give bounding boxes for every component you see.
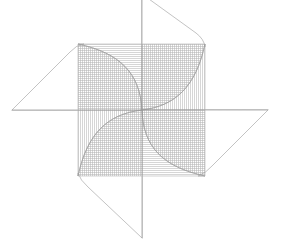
hatch-region-bottom-right (142, 110, 206, 176)
pinwheel-figure (0, 0, 281, 247)
hatch-region-top-right (142, 44, 206, 110)
hatch-region-bottom-left (78, 110, 142, 176)
pinwheel-canvas (0, 0, 281, 247)
